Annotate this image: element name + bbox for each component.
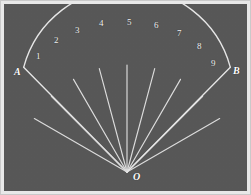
label-point-o: O — [133, 172, 140, 182]
figure-canvas: 1 2 3 4 5 6 7 8 9 A B O — [0, 0, 251, 195]
radius-1 — [34, 119, 127, 173]
label-1: 1 — [36, 52, 41, 61]
label-7: 7 — [177, 29, 182, 38]
label-point-b: B — [233, 66, 240, 76]
radius-4 — [99, 69, 127, 172]
radius-6 — [127, 69, 155, 172]
label-6: 6 — [154, 21, 159, 30]
sector-fan-drawing — [4, 4, 247, 191]
label-9: 9 — [211, 59, 216, 68]
figure-field: 1 2 3 4 5 6 7 8 9 A B O — [4, 4, 247, 191]
label-3: 3 — [75, 26, 80, 35]
label-8: 8 — [197, 42, 202, 51]
label-point-a: A — [14, 67, 21, 77]
radius-2 — [51, 96, 127, 172]
label-5: 5 — [127, 18, 132, 27]
label-4: 4 — [99, 19, 104, 28]
label-2: 2 — [54, 36, 59, 45]
radius-9 — [127, 119, 220, 173]
